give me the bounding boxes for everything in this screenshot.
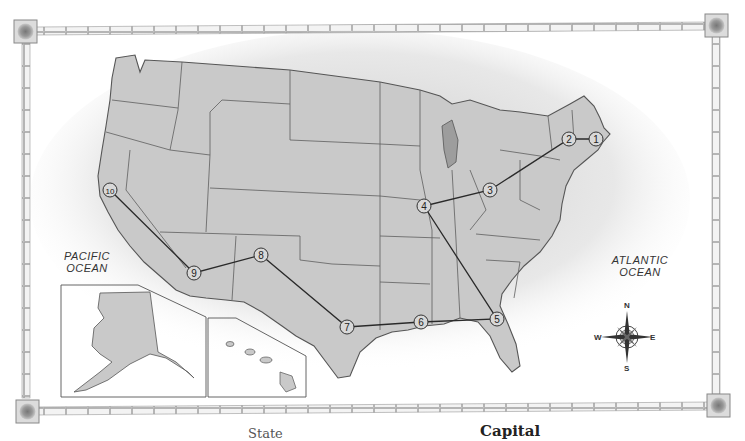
route-stop-marker: 2: [562, 132, 576, 146]
svg-text:4: 4: [421, 201, 427, 212]
capital-column-header: Capital: [480, 422, 540, 440]
route-stop-marker: 5: [490, 312, 504, 326]
route-stop-marker: 7: [340, 320, 354, 334]
compass-west-label: W: [594, 333, 602, 342]
pacific-ocean-label: PACIFIC OCEAN: [52, 250, 122, 274]
svg-text:5: 5: [494, 314, 500, 325]
route-stop-marker: 10: [103, 183, 117, 197]
svg-text:6: 6: [418, 317, 424, 328]
route-stop-marker: 6: [414, 315, 428, 329]
atlantic-ocean-label: ATLANTIC OCEAN: [600, 254, 680, 278]
compass-south-label: S: [624, 364, 629, 373]
compass-rose-icon: [601, 311, 653, 363]
compass-east-label: E: [650, 333, 655, 342]
svg-text:10: 10: [106, 187, 115, 196]
svg-text:7: 7: [344, 322, 350, 333]
state-column-header: State: [248, 426, 283, 441]
route-stop-marker: 3: [483, 183, 497, 197]
route-stop-marker: 1: [589, 132, 603, 146]
svg-text:2: 2: [566, 134, 572, 145]
route-stop-marker: 4: [417, 199, 431, 213]
svg-text:3: 3: [487, 185, 493, 196]
svg-text:1: 1: [593, 134, 599, 145]
svg-text:8: 8: [258, 250, 264, 261]
route-stop-marker: 9: [187, 266, 201, 280]
compass-north-label: N: [624, 301, 630, 310]
svg-text:9: 9: [191, 268, 197, 279]
route-stop-marker: 8: [254, 248, 268, 262]
